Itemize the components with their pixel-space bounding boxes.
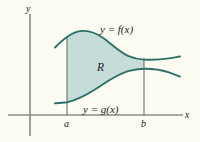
region-label: R	[96, 61, 104, 73]
y-axis-label: y	[25, 4, 31, 14]
x-tick-label-b: b	[141, 118, 146, 129]
x-axis-label: x	[184, 110, 190, 120]
lower-curve-label: y = g(x)	[82, 103, 119, 116]
figure-container: y = f(x) y = g(x) R a b x y	[0, 0, 200, 142]
upper-curve-label: y = f(x)	[99, 23, 133, 36]
x-tick-label-a: a	[64, 118, 69, 129]
region-between-curves-figure: y = f(x) y = g(x) R a b x y	[0, 0, 200, 142]
